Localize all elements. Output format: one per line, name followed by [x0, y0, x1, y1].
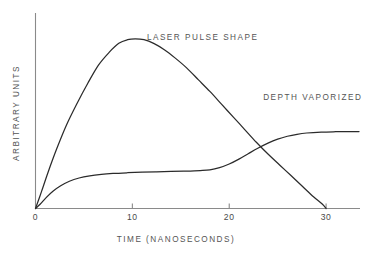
y-axis-title: ARBITRARY UNITS: [12, 65, 21, 161]
chart-figure: 0102030 LASER PULSE SHAPE DEPTH VAPORIZE…: [0, 0, 372, 253]
annotation-depth-vaporized: DEPTH VAPORIZED: [263, 93, 362, 102]
x-tick-label-30: 30: [321, 212, 332, 222]
annotation-laser-pulse-shape: LASER PULSE SHAPE: [147, 33, 259, 42]
x-axis-tick-labels: 0102030: [33, 212, 332, 222]
x-tick-label-20: 20: [224, 212, 235, 222]
line-chart-svg: 0102030 LASER PULSE SHAPE DEPTH VAPORIZE…: [0, 0, 372, 253]
series-curve-laser-pulse-shape: [36, 39, 327, 209]
x-tick-label-10: 10: [127, 212, 138, 222]
x-axis-title: TIME (NANOSECONDS): [117, 235, 235, 244]
x-tick-label-0: 0: [33, 212, 38, 222]
series-curve-depth-vaporized: [36, 132, 360, 209]
x-axis-ticks: [132, 204, 326, 209]
